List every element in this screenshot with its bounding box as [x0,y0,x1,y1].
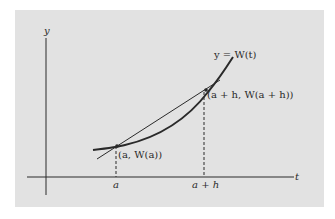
curve-w [93,57,233,150]
point-a-plus-h-label: (a + h, W(a + h)) [207,89,294,100]
t-axis-label: t [295,171,300,182]
secant-line [97,80,220,159]
point-a [115,144,119,148]
point-a-label: (a, W(a)) [118,149,162,160]
tick-a-label: a [113,179,119,190]
tick-a-plus-h-label: a + h [192,179,219,190]
secant-line-diagram: y t y = W(t) (a, W(a)) (a + h, W(a + h))… [0,0,335,219]
y-axis-label: y [43,25,50,36]
curve-label: y = W(t) [213,49,257,60]
